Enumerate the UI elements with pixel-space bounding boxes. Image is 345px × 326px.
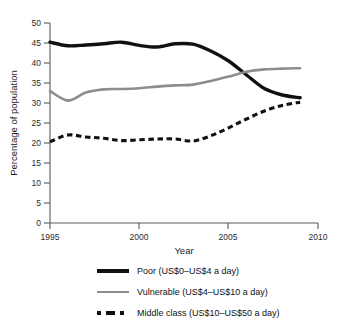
chart-figure: 50 45 40 35 30 25 20 15 10 5 0 Percentag… [0,0,345,326]
legend-swatch-vulnerable-icon [97,286,129,298]
x-tick-label: 2005 [219,232,238,242]
legend-label-vulnerable: Vulnerable (US$4–US$10 a day) [137,286,268,298]
series-line-middle-class [50,102,300,142]
legend-item-middle-class: Middle class (US$10–US$50 a day) [97,306,280,320]
y-axis-ticks [44,23,50,223]
legend-label-poor: Poor (US$0–US$4 a day) [137,265,239,277]
legend-label-middle-class: Middle class (US$10–US$50 a day) [137,307,280,319]
series-layer [50,42,300,142]
chart-legend: Poor (US$0–US$4 a day) Vulnerable (US$4–… [0,258,345,326]
x-tick-label: 2000 [130,232,149,242]
y-tick-label: 30 [32,98,42,108]
x-axis: 1995 2000 2005 2010 Year [41,223,328,256]
legend-item-vulnerable: Vulnerable (US$4–US$10 a day) [97,285,268,299]
y-tick-label: 10 [32,178,42,188]
series-line-vulnerable [50,68,300,100]
x-axis-title: Year [174,245,193,256]
y-tick-label: 35 [32,78,42,88]
legend-item-poor: Poor (US$0–US$4 a day) [97,264,239,278]
y-tick-label: 20 [32,138,42,148]
legend-swatch-poor-icon [97,265,129,277]
x-tick-label: 1995 [41,232,60,242]
y-tick-label: 25 [32,118,42,128]
y-tick-label: 0 [36,218,41,228]
y-axis: 50 45 40 35 30 25 20 15 10 5 0 Percentag… [8,18,50,228]
y-tick-label: 45 [32,38,42,48]
y-tick-label: 50 [32,18,42,28]
y-tick-label: 5 [36,198,41,208]
legend-swatch-middle-class-icon [97,307,129,319]
x-axis-ticks [50,223,318,229]
y-tick-label: 40 [32,58,42,68]
line-chart-plot: 50 45 40 35 30 25 20 15 10 5 0 Percentag… [0,0,345,258]
y-tick-label: 15 [32,158,42,168]
y-axis-title: Percentage of population [8,70,19,176]
x-tick-label: 2010 [309,232,328,242]
